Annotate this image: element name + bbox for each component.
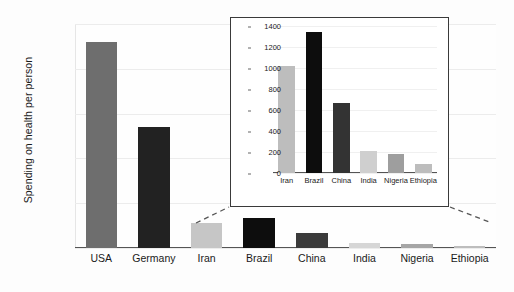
x-tick-label-iran: Iran <box>273 176 300 185</box>
x-tick-label-brazil: Brazil <box>233 252 286 264</box>
x-tick-label-nigeria: Nigeria <box>391 252 444 264</box>
bar-germany[interactable] <box>138 127 170 248</box>
bar-slot <box>410 26 437 173</box>
inset-x-tick-labels: IranBrazilChinaIndiaNigeriaEthiopia <box>273 176 437 185</box>
bar-india[interactable] <box>349 243 381 248</box>
inset-bar-chart: 0200400600800100012001400 IranBrazilChin… <box>230 17 449 207</box>
y-tick-label: 800 <box>251 85 281 94</box>
y-tick-label: 1400 <box>251 22 281 31</box>
bar-india[interactable] <box>360 151 377 173</box>
x-tick-label-nigeria: Nigeria <box>382 176 409 185</box>
y-tick-label: 400 <box>251 127 281 136</box>
y-tick-label: 1000 <box>251 64 281 73</box>
x-tick-label-brazil: Brazil <box>300 176 327 185</box>
bar-brazil[interactable] <box>243 218 275 248</box>
y-tick-mark <box>248 173 251 174</box>
bar-china[interactable] <box>296 233 328 248</box>
bar-usa[interactable] <box>86 42 118 248</box>
bar-nigeria[interactable] <box>388 154 405 173</box>
bar-slot <box>75 24 128 248</box>
inset-bars-group <box>273 26 437 173</box>
bar-china[interactable] <box>333 103 350 173</box>
x-tick-label-iran: Iran <box>180 252 233 264</box>
bar-slot <box>382 26 409 173</box>
x-tick-label-india: India <box>338 252 391 264</box>
x-tick-label-china: China <box>328 176 355 185</box>
gridline <box>273 173 437 174</box>
y-tick-label: 600 <box>251 106 281 115</box>
bar-slot <box>328 26 355 173</box>
bar-brazil[interactable] <box>306 32 323 173</box>
main-x-tick-labels: USAGermanyIranBrazilChinaIndiaNigeriaEth… <box>75 252 496 264</box>
bar-iran[interactable] <box>191 223 223 248</box>
main-y-axis-title: Spending on health per person <box>22 30 34 230</box>
bar-slot <box>128 24 181 248</box>
y-tick-label: 1200 <box>251 43 281 52</box>
x-tick-label-ethiopia: Ethiopia <box>410 176 437 185</box>
y-tick-mark <box>248 68 251 69</box>
y-tick-mark <box>248 131 251 132</box>
bar-nigeria[interactable] <box>401 244 433 248</box>
y-tick-mark <box>248 26 251 27</box>
x-tick-label-germany: Germany <box>128 252 181 264</box>
y-tick-mark <box>248 89 251 90</box>
bar-slot <box>180 24 233 248</box>
bar-iran[interactable] <box>278 66 295 173</box>
figure-root: Spending on health per person 0200040006… <box>0 0 514 292</box>
y-tick-mark <box>248 47 251 48</box>
x-tick-label-india: India <box>355 176 382 185</box>
gridline <box>75 248 496 249</box>
bar-ethiopia[interactable] <box>454 246 486 248</box>
y-tick-mark <box>248 152 251 153</box>
bar-slot <box>443 24 496 248</box>
bar-slot <box>300 26 327 173</box>
y-tick-label: 200 <box>251 148 281 157</box>
inset-plot-area <box>273 26 437 173</box>
y-tick-mark <box>248 110 251 111</box>
bar-slot <box>355 26 382 173</box>
x-tick-label-china: China <box>286 252 339 264</box>
x-tick-label-usa: USA <box>75 252 128 264</box>
bar-ethiopia[interactable] <box>415 164 432 173</box>
x-tick-label-ethiopia: Ethiopia <box>443 252 496 264</box>
